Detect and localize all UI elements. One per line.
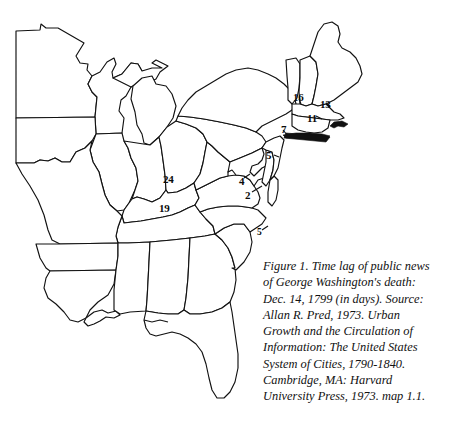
cape-cod (330, 121, 348, 128)
map-label-4: 4 (239, 176, 244, 187)
map-label-5-philadelphia: 5 (266, 150, 271, 161)
caption-line-1: Figure 1. Time lag of public news (263, 258, 449, 274)
leader-line-5-north-carolina (262, 226, 268, 230)
caption-line-9: University Press, 1973. map 1.1. (263, 388, 449, 404)
map-label-2: 2 (245, 190, 250, 201)
caption-line-6: Information: The United States (263, 339, 449, 355)
caption-line-7: System of Cities, 1790-1840. (263, 356, 449, 372)
figure-container: 16 13 11 7 5 24 19 4 2 5 Figure 1. Time … (0, 0, 457, 426)
map-label-24: 24 (163, 174, 174, 185)
state-alabama (146, 238, 190, 314)
caption-line-3: Dec. 14, 1799 (in days). Source: (263, 291, 449, 307)
figure-caption: Figure 1. Time lag of public news of Geo… (263, 258, 449, 405)
map-label-19: 19 (159, 203, 170, 214)
map-label-5-north-carolina: 5 (257, 228, 262, 238)
state-florida (144, 302, 238, 398)
map-label-7: 7 (281, 124, 286, 135)
map-label-11: 11 (307, 113, 317, 124)
map-label-16: 16 (293, 92, 304, 103)
state-arkansas (36, 243, 118, 271)
caption-line-2: of George Washington's death: (263, 274, 449, 290)
map-label-13: 13 (320, 99, 331, 110)
caption-line-8: Cambridge, MA: Harvard (263, 372, 449, 388)
state-minnesota (16, 24, 97, 118)
caption-line-4: Allan R. Pred, 1973. Urban (263, 307, 449, 323)
state-maine (310, 22, 362, 106)
state-mississippi (114, 242, 150, 314)
chesapeake-eastern-shore (268, 176, 278, 206)
caption-line-5: Growth and the Circulation of (263, 323, 449, 339)
